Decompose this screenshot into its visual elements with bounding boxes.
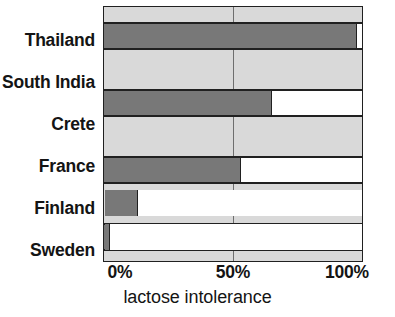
- y-axis-label-sweden: Sweden: [0, 242, 95, 260]
- x-axis-tick-50: 50%: [216, 264, 250, 282]
- row-separator: [104, 182, 362, 184]
- bar-crete: [104, 157, 241, 183]
- x-axis-tick-0: 0%: [108, 264, 133, 282]
- lactose-intolerance-bar-chart: Thailand South India Crete France Finlan…: [0, 0, 395, 317]
- y-axis-category-labels: Thailand South India Crete France Finlan…: [0, 6, 99, 262]
- bar-row-crete: [104, 157, 362, 183]
- y-axis-label-thailand: Thailand: [0, 32, 95, 50]
- row-separator: [104, 48, 362, 50]
- y-axis-label-france: France: [0, 158, 95, 176]
- bar-south-india: [104, 90, 272, 116]
- bar-finland: [105, 190, 138, 216]
- bar-thailand: [104, 23, 357, 49]
- bar-row-thailand: [104, 23, 362, 49]
- y-axis-label-crete: Crete: [0, 116, 95, 134]
- row-separator: [104, 22, 362, 24]
- x-axis-tick-100: 100%: [325, 264, 369, 282]
- row-separator: [104, 89, 362, 91]
- x-axis-title: lactose intolerance: [0, 288, 395, 306]
- bar-row-sweden: [105, 224, 362, 250]
- bar-row-finland: [105, 190, 362, 216]
- y-axis-label-south-india: South India: [0, 74, 95, 92]
- row-separator: [104, 156, 362, 158]
- y-axis-label-finland: Finland: [0, 200, 95, 218]
- row-separator: [104, 115, 362, 117]
- bar-sweden: [105, 224, 110, 250]
- bar-row-south-india: [104, 90, 362, 116]
